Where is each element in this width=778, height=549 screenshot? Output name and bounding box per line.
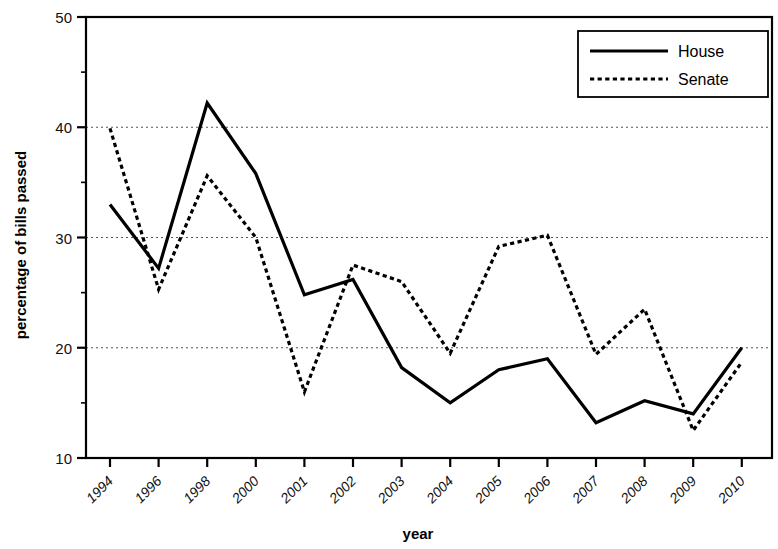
y-tick-label-20: 20 [55, 340, 72, 357]
legend-label-house: House [678, 43, 724, 60]
x-axis-title: year [403, 525, 434, 542]
legend-label-senate: Senate [678, 71, 729, 88]
y-tick-label-30: 30 [55, 230, 72, 247]
chart-legend: HouseSenate [578, 31, 768, 97]
y-tick-label-10: 10 [55, 450, 72, 467]
y-axis-title: percentage of bills passed [12, 151, 29, 339]
y-tick-label-50: 50 [55, 9, 72, 26]
y-tick-label-40: 40 [55, 119, 72, 136]
legend-box [578, 31, 768, 97]
line-chart: 1020304050 19941996199820002001200220032… [0, 0, 778, 549]
chart-figure: 1020304050 19941996199820002001200220032… [0, 0, 778, 549]
